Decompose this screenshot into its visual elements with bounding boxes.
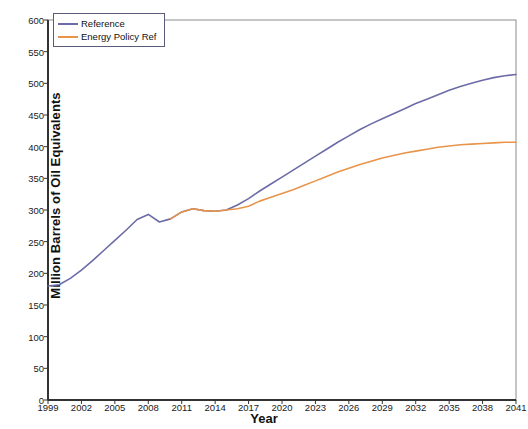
x-axis-title: Year [0,411,528,426]
legend-label: Reference [81,17,125,30]
legend-color-swatch [58,36,78,38]
plot-frame [48,20,516,400]
legend-item: Reference [58,17,157,30]
plot-area [0,0,528,429]
chart-legend: ReferenceEnergy Policy Ref [53,13,165,47]
legend-label: Energy Policy Ref [81,30,157,43]
line-chart: Million Barrels of Oil Equivalents 05010… [0,0,528,429]
legend-color-swatch [58,23,78,25]
legend-item: Energy Policy Ref [58,30,157,43]
series-line-energy-policy-ref [171,142,516,219]
series-line-reference [48,74,516,286]
